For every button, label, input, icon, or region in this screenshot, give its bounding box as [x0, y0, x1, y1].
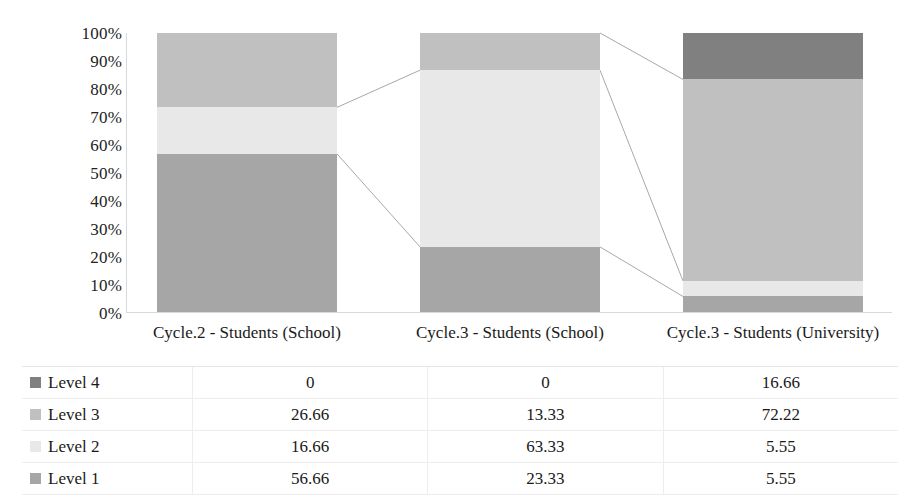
stacked-bar[interactable]: [683, 33, 863, 312]
legend-label: Level 4: [48, 374, 99, 391]
legend-label: Level 3: [48, 406, 99, 423]
table-row: Level 156.6623.335.55: [22, 463, 898, 495]
table-row: Level 216.6663.335.55: [22, 431, 898, 463]
table-cell-value: 26.66: [193, 399, 428, 430]
legend-swatch-icon: [30, 473, 41, 484]
bar-segment-level-3[interactable]: [420, 33, 600, 70]
bar-segment-level-3[interactable]: [683, 79, 863, 280]
legend-swatch-icon: [30, 409, 41, 420]
table-cell-value: 13.33: [428, 399, 663, 430]
legend-entry[interactable]: Level 2: [22, 431, 193, 462]
stacked-bar[interactable]: [420, 33, 600, 312]
x-axis-category-labels: Cycle.2 - Students (School)Cycle.3 - Stu…: [0, 316, 918, 364]
bar-segment-level-1[interactable]: [420, 247, 600, 312]
stacked-bar-chart: 100%90%80%70%60%50%40%30%20%10%0% Cycle.…: [0, 0, 918, 499]
table-cell-value: 16.66: [664, 367, 898, 398]
x-axis-category-label: Cycle.3 - Students (School): [388, 322, 632, 343]
table-cell-value: 0: [193, 367, 428, 398]
table-cell-value: 0: [428, 367, 663, 398]
bar-segment-level-2[interactable]: [157, 107, 337, 153]
table-cell-value: 63.33: [428, 431, 663, 462]
x-axis-category-label: Cycle.3 - Students (University): [651, 322, 895, 343]
bar-segment-level-2[interactable]: [683, 281, 863, 296]
legend-entry[interactable]: Level 4: [22, 367, 193, 398]
table-cell-value: 5.55: [664, 463, 898, 494]
chart-data-table: Level 40016.66Level 326.6613.3372.22Leve…: [22, 366, 898, 495]
table-cell-value: 5.55: [664, 431, 898, 462]
legend-entry[interactable]: Level 3: [22, 399, 193, 430]
table-cell-value: 16.66: [193, 431, 428, 462]
bar-segment-level-2[interactable]: [420, 70, 600, 247]
plot-area: 100%90%80%70%60%50%40%30%20%10%0%: [0, 0, 918, 355]
x-axis-category-label: Cycle.2 - Students (School): [125, 322, 369, 343]
bar-segment-level-4[interactable]: [683, 33, 863, 79]
legend-label: Level 1: [48, 470, 99, 487]
table-cell-value: 23.33: [428, 463, 663, 494]
stacked-bar[interactable]: [157, 33, 337, 312]
bar-segment-level-3[interactable]: [157, 33, 337, 107]
legend-swatch-icon: [30, 377, 41, 388]
bar-group: [0, 0, 918, 355]
table-cell-value: 72.22: [664, 399, 898, 430]
legend-entry[interactable]: Level 1: [22, 463, 193, 494]
legend-label: Level 2: [48, 438, 99, 455]
legend-swatch-icon: [30, 441, 41, 452]
bar-segment-level-1[interactable]: [683, 296, 863, 311]
table-cell-value: 56.66: [193, 463, 428, 494]
bar-segment-level-1[interactable]: [157, 154, 337, 312]
table-row: Level 326.6613.3372.22: [22, 399, 898, 431]
table-row: Level 40016.66: [22, 367, 898, 399]
